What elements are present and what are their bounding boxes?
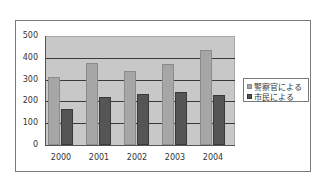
y-tick-label: 200 <box>8 97 38 105</box>
y-tick-label: 400 <box>8 54 38 62</box>
bar-citizen-2002 <box>137 94 149 145</box>
y-tick-label: 300 <box>8 76 38 84</box>
y-tick-label: 100 <box>8 119 38 127</box>
legend-swatch-police <box>247 84 252 89</box>
y-tick-label: 0 <box>8 141 38 149</box>
x-tick-label: 2002 <box>122 153 152 162</box>
x-axis <box>45 145 235 146</box>
y-tick-label: 500 <box>8 32 38 40</box>
legend: 警察官による 市民による <box>243 78 309 102</box>
legend-label-citizen: 市民による <box>254 91 294 102</box>
bar-citizen-2004 <box>213 95 225 145</box>
x-tick-label: 2003 <box>160 153 190 162</box>
x-tick-label: 2000 <box>46 153 76 162</box>
legend-item-citizen: 市民による <box>247 91 294 101</box>
bar-citizen-2003 <box>175 92 187 145</box>
legend-item-police: 警察官による <box>247 81 302 91</box>
y-axis <box>45 36 46 146</box>
bar-police-2004 <box>200 50 212 145</box>
bar-citizen-2001 <box>99 97 111 145</box>
bar-police-2002 <box>124 71 136 145</box>
x-tick-label: 2004 <box>198 153 228 162</box>
bar-police-2003 <box>162 64 174 145</box>
bar-citizen-2000 <box>61 109 73 145</box>
x-tick-label: 2001 <box>84 153 114 162</box>
bar-police-2000 <box>48 77 60 145</box>
legend-swatch-citizen <box>247 94 252 99</box>
bar-police-2001 <box>86 63 98 145</box>
